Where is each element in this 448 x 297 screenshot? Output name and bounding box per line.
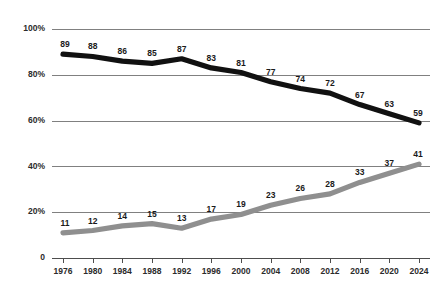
data-point-label: 83 xyxy=(207,53,217,63)
data-point-label: 59 xyxy=(413,108,423,118)
x-axis-tick-label: 2008 xyxy=(291,266,310,276)
x-axis-tick-label: 2012 xyxy=(321,266,340,276)
data-point-label: 14 xyxy=(118,211,128,221)
data-point-label: 17 xyxy=(207,204,217,214)
x-axis-tick-label: 2000 xyxy=(232,266,251,276)
x-axis-tick-label: 1988 xyxy=(143,266,162,276)
x-axis-tick-label: 1980 xyxy=(83,266,102,276)
x-axis-tick-label: 2004 xyxy=(261,266,280,276)
data-point-label: 11 xyxy=(61,218,70,228)
data-point-label: 15 xyxy=(147,209,157,219)
y-axis-tick-labels: 020%40%60%80%100% xyxy=(23,23,45,262)
data-point-label: 28 xyxy=(325,179,335,189)
data-point-label: 26 xyxy=(296,183,306,193)
data-point-label: 41 xyxy=(413,149,423,159)
y-axis-tick-label: 0 xyxy=(40,252,45,262)
x-axis-tick-label: 1984 xyxy=(113,266,132,276)
series-line-gray xyxy=(63,164,419,233)
data-point-label: 74 xyxy=(296,74,306,84)
data-point-label: 81 xyxy=(236,58,246,68)
y-axis-tick-label: 100% xyxy=(23,23,45,33)
x-axis-tick-labels: 1976198019841988199219962000200420082012… xyxy=(54,266,429,276)
x-axis-tick-label: 2024 xyxy=(410,266,429,276)
data-point-label: 86 xyxy=(118,46,128,56)
data-point-label: 67 xyxy=(355,90,365,100)
y-axis-tick-label: 60% xyxy=(28,115,45,125)
x-axis-tick-label: 1992 xyxy=(172,266,191,276)
x-axis-tick-label: 1996 xyxy=(202,266,221,276)
data-point-label: 77 xyxy=(266,67,276,77)
y-axis-tick-label: 20% xyxy=(28,206,45,216)
line-chart: 020%40%60%80%100% 1976198019841988199219… xyxy=(0,0,448,297)
data-point-label: 89 xyxy=(60,39,70,49)
data-point-label: 19 xyxy=(236,199,246,209)
data-point-label: 88 xyxy=(88,41,98,51)
chart-canvas: 020%40%60%80%100% 1976198019841988199219… xyxy=(0,0,448,297)
data-point-label: 85 xyxy=(147,48,157,58)
data-point-label: 33 xyxy=(355,167,365,177)
data-point-label: 87 xyxy=(177,44,187,54)
x-axis-tick-label: 1976 xyxy=(54,266,73,276)
data-point-label: 23 xyxy=(266,190,276,200)
data-point-label: 37 xyxy=(385,158,395,168)
x-axis-tick-label: 2016 xyxy=(350,266,369,276)
y-axis-tick-label: 40% xyxy=(28,161,45,171)
data-point-label: 63 xyxy=(385,99,395,109)
y-axis-tick-label: 80% xyxy=(28,69,45,79)
data-point-label: 12 xyxy=(88,216,98,226)
data-point-label: 72 xyxy=(325,78,335,88)
data-point-label: 13 xyxy=(177,213,187,223)
x-axis-tick-label: 2020 xyxy=(380,266,399,276)
